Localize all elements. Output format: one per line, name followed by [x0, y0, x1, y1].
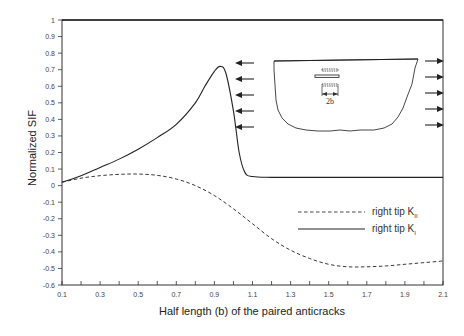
dimension-label: 2b	[326, 97, 334, 106]
x-tick-label: 1.3	[286, 291, 296, 298]
x-tick-label: 1.5	[324, 291, 334, 298]
arrow-right-icon	[425, 74, 444, 80]
x-tick-label: 1.7	[362, 291, 372, 298]
legend-label-ki: right tip KI	[372, 223, 416, 236]
x-axis-title: Half length (b) of the paired anticracks	[159, 305, 345, 317]
y-tick-label: 1	[51, 17, 55, 24]
arrow-right-icon	[425, 58, 444, 64]
x-tick-label: 1.1	[248, 291, 258, 298]
x-tick-label: 0.3	[95, 291, 105, 298]
sif-chart: 10.90.80.70.60.50.40.30.20.10-0.1-0.2-0.…	[0, 0, 464, 336]
y-tick-label: 0	[51, 182, 55, 189]
y-tick-label: 0.2	[45, 149, 55, 156]
arrow-left-icon	[235, 108, 254, 114]
y-tick-label: -0.5	[43, 265, 55, 272]
inset-domain-outline	[274, 59, 418, 131]
inset-diagram: 2b	[235, 58, 444, 131]
x-tick-label: 2.1	[438, 291, 448, 298]
y-axis-title: Normalized SIF	[26, 110, 38, 186]
x-tick-label: 0.7	[171, 291, 181, 298]
dimension-arrow-icon	[322, 92, 338, 96]
y-tick-label: 0.4	[45, 116, 55, 123]
legend-label-kii: right tip KII	[372, 206, 418, 219]
arrow-right-icon	[425, 106, 444, 112]
x-tick-label: 0.1	[57, 291, 67, 298]
arrow-left-icon	[235, 76, 254, 82]
anticrack-top	[322, 69, 338, 71]
x-tick-label: 1.9	[400, 291, 410, 298]
x-tick-label: 0.9	[210, 291, 220, 298]
arrow-left-icon	[235, 92, 254, 98]
x-tick-label: 0.5	[133, 291, 143, 298]
y-tick-label: 0.5	[45, 99, 55, 106]
left-traction-arrows	[235, 60, 254, 130]
y-tick-label: -0.1	[43, 199, 55, 206]
y-tick-label: 0.3	[45, 132, 55, 139]
y-tick-label: -0.6	[43, 282, 55, 289]
series-kii-line	[62, 174, 443, 267]
arrow-right-icon	[425, 90, 444, 96]
arrow-left-icon	[235, 124, 254, 130]
y-tick-label: -0.4	[43, 248, 55, 255]
y-tick-label: 0.9	[45, 33, 55, 40]
anticrack-middle	[315, 75, 339, 77]
data-series	[62, 66, 443, 267]
y-tick-label: -0.3	[43, 232, 55, 239]
arrow-right-icon	[425, 122, 444, 128]
anticrack-bottom	[322, 84, 338, 86]
arrow-left-icon	[235, 60, 254, 66]
y-tick-label: 0.7	[45, 66, 55, 73]
x-axis-ticks: 0.10.30.50.70.91.11.31.51.71.92.1	[57, 281, 448, 298]
y-axis-ticks: 10.90.80.70.60.50.40.30.20.10-0.1-0.2-0.…	[43, 17, 62, 289]
right-traction-arrows	[425, 58, 444, 128]
y-tick-label: -0.2	[43, 215, 55, 222]
legend: right tip KII right tip KI	[298, 206, 418, 236]
y-tick-label: 0.1	[45, 166, 55, 173]
y-tick-label: 0.6	[45, 83, 55, 90]
series-ki-line	[62, 66, 443, 182]
y-tick-label: 0.8	[45, 50, 55, 57]
